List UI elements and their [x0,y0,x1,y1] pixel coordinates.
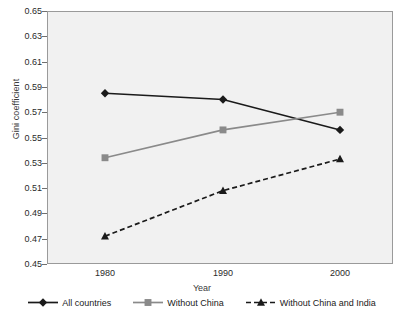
series-line [105,159,340,236]
legend-item: Without China and India [246,297,376,308]
data-point-marker [336,155,344,162]
y-axis-tick-label: 0.53 [2,158,42,168]
y-axis-tick-label: 0.45 [2,259,42,269]
y-axis-tick-label: 0.61 [2,57,42,67]
legend-item: All countries [28,297,111,308]
legend-marker-icon [246,297,276,308]
data-point-marker [220,126,227,133]
y-axis-tick-mark [42,264,47,265]
series-3 [101,155,344,240]
series-2 [102,109,344,161]
legend-item-label: Without China and India [280,298,376,308]
plot-series-layer [47,11,393,264]
gini-coefficient-line-chart: Gini coefficient 0.650.630.610.590.570.5… [0,0,404,317]
x-axis-tick-label: 1980 [75,268,135,278]
legend-marker-icon [133,297,163,308]
y-axis-tick-label: 0.55 [2,133,42,143]
data-point-marker [336,126,344,134]
y-axis-tick-label: 0.65 [2,6,42,16]
x-axis-tick-label: 2000 [310,268,370,278]
y-axis-tick-label: 0.57 [2,107,42,117]
legend-item-label: All countries [62,298,111,308]
data-point-marker [219,95,227,103]
legend-marker-icon [28,297,58,308]
y-axis-tick-label: 0.47 [2,234,42,244]
data-point-marker [101,89,109,97]
y-axis-tick-label: 0.59 [2,82,42,92]
x-axis-title: Year [0,283,404,293]
data-point-marker [102,154,109,161]
legend-item: Without China [133,297,224,308]
legend-item-label: Without China [167,298,224,308]
y-axis-tick-label: 0.51 [2,183,42,193]
y-axis-tick-label: 0.49 [2,208,42,218]
y-axis-tick-label: 0.63 [2,31,42,41]
series-line [105,112,340,158]
data-point-marker [337,109,344,116]
chart-legend: All countriesWithout ChinaWithout China … [0,297,404,308]
x-axis-tick-label: 1990 [193,268,253,278]
